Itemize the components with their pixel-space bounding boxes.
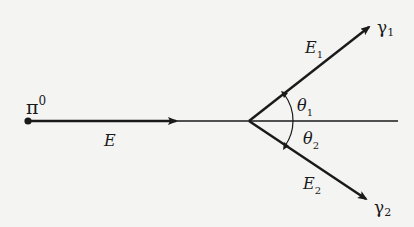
pion-label: π0: [26, 94, 46, 118]
photon-1-energy-label: E1: [304, 38, 323, 60]
photon-1-label: γ1: [377, 17, 394, 39]
theta-1-label: θ1: [297, 96, 313, 118]
theta-1-arc: [284, 94, 293, 121]
photon-2-label: γ2: [374, 197, 391, 219]
theta-2-label: θ2: [303, 129, 319, 151]
theta-2-arc-arrowhead: [283, 142, 289, 150]
theta-2-arc: [285, 121, 293, 146]
pion-origin-dot: [24, 117, 31, 124]
incoming-energy-label: E: [103, 131, 116, 150]
photon-2-energy-label: E2: [302, 174, 321, 196]
pion-decay-diagram: π0 E E1 γ1 θ1 θ2 E2 γ2: [0, 0, 414, 227]
